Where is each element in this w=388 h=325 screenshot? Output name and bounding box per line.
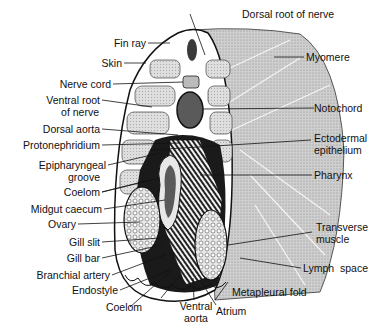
- label-myomere: Myomere: [306, 52, 350, 63]
- label-dorsal-root-of-nerve: Dorsal root of nerve: [242, 9, 334, 20]
- label-nerve-cord: Nerve cord: [40, 79, 111, 90]
- nerve-cord-shape: [183, 76, 199, 88]
- label-skin: Skin: [90, 58, 122, 69]
- label-branchial-artery: Branchial artery: [10, 270, 110, 281]
- label-lymph-space: Lymph space: [303, 263, 368, 274]
- label-endostyle: Endostyle: [40, 285, 118, 296]
- label-midgut-caecum: Midgut caecum: [10, 204, 102, 215]
- label-ventral-root-line2: of nerve: [30, 107, 99, 118]
- fin-ray-shape: [187, 39, 197, 61]
- label-metapleural-fold: Metapleural fold: [232, 287, 307, 298]
- label-ectodermal-line2: epithelium: [314, 145, 362, 156]
- label-coelom-upper: Coelom: [40, 187, 100, 198]
- label-ectodermal-line1: Ectodermal: [314, 133, 367, 144]
- notochord-shape: [177, 92, 203, 128]
- label-coelom-lower: Coelom: [100, 302, 148, 313]
- ovary-right-shape: [195, 210, 227, 280]
- label-pharynx: Pharynx: [314, 170, 353, 181]
- label-ventral-aorta-line2: aorta: [178, 313, 214, 324]
- label-transverse-line1: Transverse: [316, 222, 368, 233]
- label-atrium: Atrium: [216, 306, 246, 317]
- label-protonephridium: Protonephridium: [10, 140, 100, 151]
- label-notochord: Notochord: [314, 103, 362, 114]
- label-ventral-aorta-line1: Ventral: [178, 301, 214, 312]
- label-dorsal-aorta: Dorsal aorta: [20, 124, 100, 135]
- label-epipharyngeal-line1: Epipharyngeal: [10, 160, 106, 171]
- label-fin-ray: Fin ray: [100, 38, 146, 49]
- label-epipharyngeal-line2: groove: [10, 172, 100, 183]
- label-gill-bar: Gill bar: [40, 253, 100, 264]
- label-ovary: Ovary: [40, 219, 76, 230]
- label-gill-slit: Gill slit: [40, 237, 100, 248]
- label-ventral-root-line1: Ventral root: [30, 95, 100, 106]
- ovary-left-shape: [124, 187, 160, 253]
- label-transverse-line2: muscle: [316, 234, 349, 245]
